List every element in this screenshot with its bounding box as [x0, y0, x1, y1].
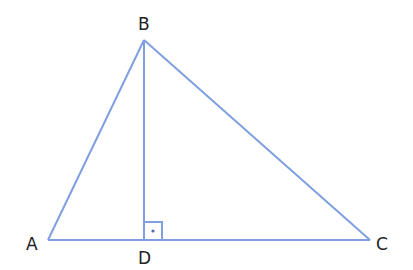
- right-angle-dot: [151, 229, 154, 232]
- triangle-diagram: B A C D: [0, 0, 413, 270]
- vertex-label-d: D: [138, 248, 151, 268]
- segment-bc: [144, 40, 370, 240]
- segment-ab: [48, 40, 144, 240]
- vertex-label-a: A: [26, 234, 38, 254]
- vertex-label-c: C: [376, 234, 388, 254]
- vertex-label-b: B: [138, 14, 150, 34]
